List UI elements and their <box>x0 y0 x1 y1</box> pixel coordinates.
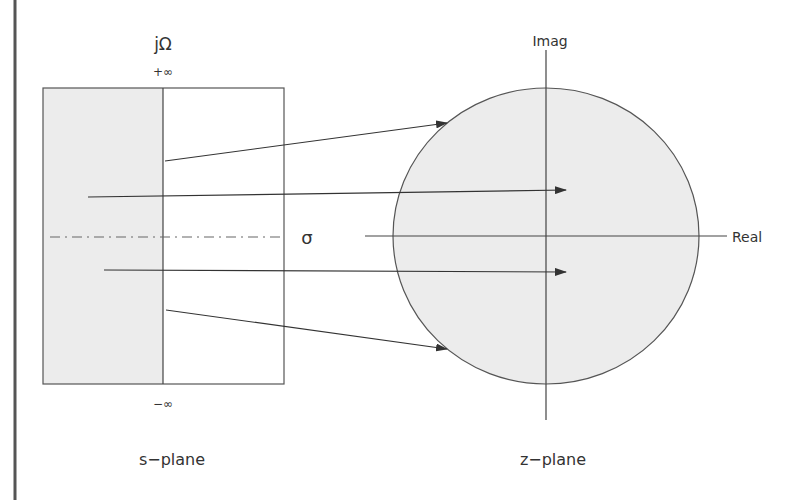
s-plane-left-half-plane-shaded <box>43 88 163 384</box>
minus-infinity-label: −∞ <box>153 397 173 411</box>
s-to-z-mapping-diagram: jΩ +∞ −∞ σ s−plane Imag Real z−plane <box>0 0 803 500</box>
jomega-label: jΩ <box>153 34 172 54</box>
z-plane-title: z−plane <box>520 450 586 469</box>
real-axis-label: Real <box>732 229 762 245</box>
plus-infinity-label: +∞ <box>153 65 173 79</box>
imag-axis-label: Imag <box>532 33 567 49</box>
s-plane <box>43 88 284 384</box>
arrow-upper-jomega <box>165 123 447 161</box>
z-plane <box>365 50 727 420</box>
s-plane-title: s−plane <box>139 450 205 469</box>
arrow-lower-jomega <box>166 310 447 349</box>
sigma-label: σ <box>301 227 312 248</box>
